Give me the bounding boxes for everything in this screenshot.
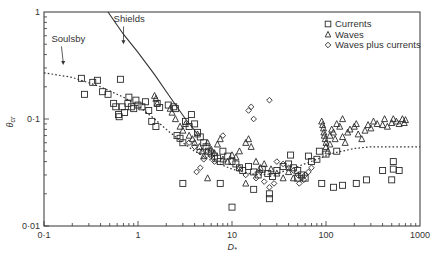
svg-text:Waves plus currents: Waves plus currents bbox=[335, 39, 421, 50]
y-tick-label: 1 bbox=[35, 7, 40, 17]
svg-text:Shields: Shields bbox=[114, 13, 145, 24]
x-tick-label: 0·1 bbox=[37, 230, 50, 240]
x-tick-label: 1 bbox=[135, 230, 140, 240]
svg-text:Soulsby: Soulsby bbox=[51, 33, 85, 44]
y-tick-label: 0·01 bbox=[22, 221, 40, 231]
x-tick-label: 100 bbox=[318, 230, 333, 240]
y-axis-tick-labels: 0·010·11 bbox=[22, 7, 40, 231]
svg-text:Waves: Waves bbox=[335, 29, 364, 40]
y-axis-title: θcr bbox=[5, 116, 16, 127]
x-tick-label: 10 bbox=[227, 230, 237, 240]
chart: 0·11101001000 0·010·11 D* θcr ShieldsSou… bbox=[0, 0, 437, 261]
svg-text:Currents: Currents bbox=[335, 18, 372, 29]
legend-item-waves-plus-currents: Waves plus currents bbox=[325, 39, 421, 50]
y-tick-label: 0·1 bbox=[27, 114, 40, 124]
x-axis-tick-labels: 0·11101001000 bbox=[37, 230, 430, 240]
svg-text:θcr: θcr bbox=[5, 116, 16, 127]
x-axis-title: D* bbox=[227, 242, 237, 253]
svg-text:D*: D* bbox=[227, 242, 237, 253]
x-tick-label: 1000 bbox=[410, 230, 430, 240]
